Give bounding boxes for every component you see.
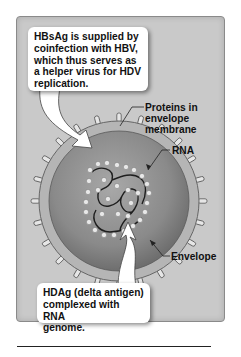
proteins-label: Proteins in envelope membrane <box>145 102 198 135</box>
callout-line: HDAg (delta antigen) <box>43 287 144 299</box>
caption-divider <box>17 346 211 347</box>
top-callout-pointer-icon <box>40 88 92 148</box>
rna-label: RNA <box>172 145 194 156</box>
hdag-callout: HDAg (delta antigen) complexed with RNA … <box>37 283 150 323</box>
callout-line: complexed with RNA <box>43 299 144 323</box>
label-line: membrane <box>145 124 198 135</box>
label-line: envelope <box>145 113 198 124</box>
callout-line: coinfection with HBV, <box>34 43 142 55</box>
callout-line: genome. <box>43 322 144 334</box>
hbsag-callout: HBsAg is supplied by coinfection with HB… <box>28 27 148 91</box>
callout-line: a helper virus for HDV <box>34 66 142 78</box>
label-line: Proteins in <box>145 102 198 113</box>
envelope-label: Envelope <box>171 251 216 262</box>
callout-line: replication. <box>34 78 142 90</box>
callout-line: HBsAg is supplied by <box>34 31 142 43</box>
callout-line: which thus serves as <box>34 55 142 67</box>
